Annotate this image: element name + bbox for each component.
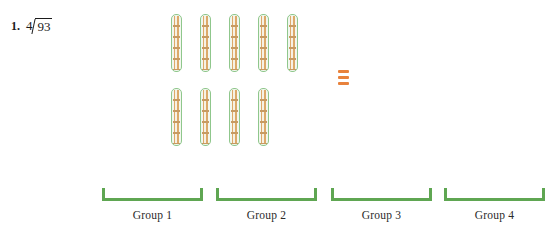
group-label: Group 3 — [331, 209, 432, 221]
group-slot-4[interactable]: Group 4 — [444, 188, 545, 230]
bracket-bar — [216, 198, 317, 201]
group-slot-3[interactable]: Group 3 — [331, 188, 432, 230]
ten-rod-icon[interactable] — [258, 88, 269, 146]
ten-rod-icon[interactable] — [229, 14, 240, 72]
ten-rod-icon[interactable] — [287, 14, 298, 72]
long-division-expression: 4 93 — [26, 18, 52, 35]
group-bracket-icon — [331, 188, 432, 201]
ten-rods-row-1 — [171, 14, 298, 72]
ten-rod-icon[interactable] — [229, 88, 240, 146]
unit-cube-icon[interactable] — [338, 82, 349, 85]
bracket-tick-right — [200, 188, 203, 201]
group-slot-2[interactable]: Group 2 — [216, 188, 317, 230]
ten-rod-icon[interactable] — [258, 14, 269, 72]
unit-cube-icon[interactable] — [338, 70, 349, 73]
problem-number: 1. — [11, 18, 20, 34]
bracket-bar — [102, 198, 203, 201]
ten-rod-icon[interactable] — [171, 14, 182, 72]
group-bracket-icon — [444, 188, 545, 201]
bracket-tick-right — [314, 188, 317, 201]
group-bracket-icon — [216, 188, 317, 201]
group-label: Group 4 — [444, 209, 545, 221]
unit-cube-icon[interactable] — [338, 76, 349, 79]
group-slot-1[interactable]: Group 1 — [102, 188, 203, 230]
ten-rods-row-2 — [171, 88, 269, 146]
division-problem: 1. 4 93 — [11, 18, 52, 35]
worksheet-page: 1. 4 93 Group 1 — [0, 0, 551, 233]
bracket-tick-right — [429, 188, 432, 201]
long-division-bracket-icon: 93 — [33, 18, 52, 35]
ten-rod-icon[interactable] — [200, 14, 211, 72]
group-label: Group 2 — [216, 209, 317, 221]
bracket-bar — [331, 198, 432, 201]
group-label: Group 1 — [102, 209, 203, 221]
ten-rod-icon[interactable] — [171, 88, 182, 146]
bracket-bar — [444, 198, 545, 201]
bracket-tick-right — [542, 188, 545, 201]
unit-cubes-group — [338, 70, 349, 85]
ten-rod-icon[interactable] — [200, 88, 211, 146]
dividend: 93 — [35, 18, 52, 34]
group-bracket-icon — [102, 188, 203, 201]
